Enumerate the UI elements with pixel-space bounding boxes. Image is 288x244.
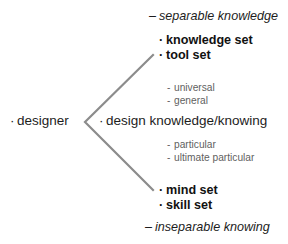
caption-bottom-label: inseparable knowing bbox=[155, 220, 270, 234]
lower-branch-sub-items: -particular -ultimate particular bbox=[167, 139, 254, 164]
concept-diagram: ·designer –separable knowledge ·knowledg… bbox=[0, 0, 288, 244]
root-node-designer: ·designer bbox=[10, 114, 69, 128]
caption-separable-knowledge: –separable knowledge bbox=[149, 10, 278, 23]
en-dash-icon: – bbox=[145, 221, 155, 234]
dash-icon: - bbox=[167, 82, 174, 95]
list-item-label: general bbox=[174, 95, 208, 106]
list-item-label: particular bbox=[174, 139, 216, 150]
bullet-icon: · bbox=[159, 48, 166, 63]
lower-branch-items: ·mind set ·skill set bbox=[159, 183, 218, 213]
upper-branch-items: ·knowledge set ·tool set bbox=[159, 33, 253, 63]
bullet-icon: · bbox=[159, 198, 166, 213]
caption-top-label: separable knowledge bbox=[159, 9, 278, 23]
list-item-label: ultimate particular bbox=[174, 152, 254, 163]
dash-icon: - bbox=[167, 95, 174, 108]
list-item: ·skill set bbox=[159, 198, 218, 213]
list-item-label: knowledge set bbox=[166, 33, 253, 47]
list-item-label: skill set bbox=[166, 198, 212, 212]
list-item-label: universal bbox=[174, 82, 215, 93]
center-node-label: design knowledge/knowing bbox=[106, 113, 267, 128]
bullet-icon: · bbox=[10, 114, 17, 128]
dash-icon: - bbox=[167, 139, 174, 152]
list-item-label: mind set bbox=[166, 183, 218, 197]
list-item: ·mind set bbox=[159, 183, 218, 198]
list-item: ·tool set bbox=[159, 48, 253, 63]
root-node-label: designer bbox=[17, 113, 69, 128]
list-item: ·knowledge set bbox=[159, 33, 253, 48]
upper-branch-sub-items: -universal -general bbox=[167, 82, 215, 107]
bullet-icon: · bbox=[99, 114, 106, 128]
center-node-design-knowledge: ·design knowledge/knowing bbox=[99, 114, 267, 128]
bullet-icon: · bbox=[159, 33, 166, 48]
caption-inseparable-knowing: –inseparable knowing bbox=[145, 221, 270, 234]
bullet-icon: · bbox=[159, 183, 166, 198]
list-item: -ultimate particular bbox=[167, 152, 254, 165]
en-dash-icon: – bbox=[149, 10, 159, 23]
dash-icon: - bbox=[167, 152, 174, 165]
list-item: -general bbox=[167, 95, 215, 108]
list-item: -universal bbox=[167, 82, 215, 95]
list-item: -particular bbox=[167, 139, 254, 152]
list-item-label: tool set bbox=[166, 48, 211, 62]
